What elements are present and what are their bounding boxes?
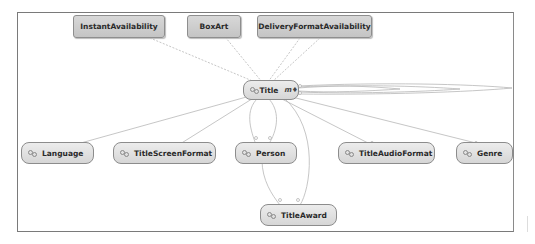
- entity-icon: [345, 149, 355, 158]
- entity-title-audio-format[interactable]: TitleAudioFormat: [338, 142, 435, 164]
- entity-icon: [28, 149, 38, 158]
- expand-icon[interactable]: m♦: [284, 86, 298, 94]
- entity-person[interactable]: Person: [235, 142, 297, 164]
- entity-language[interactable]: Language: [21, 142, 94, 164]
- entity-title-award[interactable]: TitleAward: [260, 204, 337, 226]
- entity-title[interactable]: Title m♦: [243, 80, 299, 100]
- entity-instant-availability[interactable]: InstantAvailability: [73, 15, 165, 38]
- entity-label: Person: [256, 149, 285, 158]
- entity-title-screen-format[interactable]: TitleScreenFormat: [113, 142, 216, 164]
- entity-label: InstantAvailability: [80, 22, 157, 31]
- entity-label: DeliveryFormatAvailability: [258, 22, 370, 31]
- entity-icon: [250, 86, 255, 95]
- entity-label: TitleAudioFormat: [359, 149, 432, 158]
- entity-label: Genre: [477, 149, 502, 158]
- entity-icon: [267, 211, 277, 220]
- scroll-edge: [527, 216, 531, 232]
- entity-icon: [242, 149, 252, 158]
- entity-icon: [463, 149, 473, 158]
- entity-label: Language: [42, 149, 83, 158]
- entity-label: TitleAward: [281, 211, 327, 220]
- entity-icon: [120, 149, 130, 158]
- entity-label: TitleScreenFormat: [134, 149, 212, 158]
- entity-label: BoxArt: [200, 22, 229, 31]
- entity-box-art[interactable]: BoxArt: [187, 15, 241, 38]
- entity-genre[interactable]: Genre: [456, 142, 513, 164]
- entity-delivery-format-availability[interactable]: DeliveryFormatAvailability: [257, 15, 372, 38]
- entity-label: Title: [259, 86, 278, 95]
